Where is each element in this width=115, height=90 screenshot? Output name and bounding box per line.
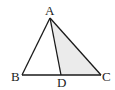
- label-a: A: [45, 3, 55, 18]
- triangle-diagram: A B D C: [0, 0, 115, 90]
- label-b: B: [11, 69, 20, 84]
- label-c: C: [102, 69, 111, 84]
- label-d: D: [57, 75, 66, 90]
- segment-ab: [22, 18, 50, 75]
